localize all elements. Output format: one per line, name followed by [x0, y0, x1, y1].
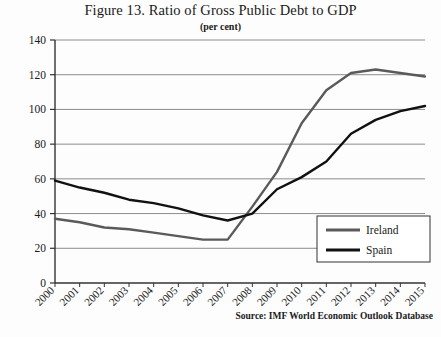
y-tick-label: 80 [35, 138, 47, 150]
x-tick-label: 2012 [328, 284, 352, 308]
x-tick-label: 2004 [131, 284, 155, 308]
legend-label-spain: Spain [366, 244, 392, 257]
source-note: Source: IMF World Economic Outlook Datab… [236, 311, 433, 321]
x-tick-label: 2010 [279, 284, 303, 308]
x-tick-label: 2015 [402, 284, 426, 308]
x-tick-label: 2002 [82, 284, 106, 308]
y-tick-label: 40 [35, 208, 47, 220]
y-tick-label: 140 [29, 34, 47, 46]
series-line-ireland [55, 70, 425, 240]
x-tick-label: 2005 [156, 284, 180, 308]
x-tick-label: 2003 [106, 284, 130, 308]
x-tick-label: 2008 [230, 284, 254, 308]
x-tick-label: 2006 [180, 284, 204, 308]
y-tick-label: 60 [35, 173, 47, 185]
x-tick-label: 2007 [205, 284, 229, 308]
y-tick-label: 100 [29, 103, 47, 115]
x-tick-label: 2001 [57, 284, 81, 308]
line-chart: 020406080100120140 200020012002200320042… [0, 0, 441, 337]
figure-container: Figure 13. Ratio of Gross Public Debt to… [0, 0, 441, 337]
y-tick-label: 20 [35, 242, 47, 254]
x-tick-label: 2011 [304, 284, 328, 308]
x-tick-label: 2009 [254, 284, 278, 308]
x-tick-label: 2000 [32, 284, 56, 308]
data-series [55, 70, 425, 240]
y-tick-label: 120 [29, 69, 47, 81]
x-axis-ticks: 2000200120022003200420052006200720082009… [32, 283, 426, 308]
y-axis-ticks: 020406080100120140 [29, 34, 55, 289]
x-tick-label: 2014 [378, 284, 402, 308]
legend-label-ireland: Ireland [366, 224, 399, 236]
chart-legend: IrelandSpain [317, 216, 430, 262]
x-tick-label: 2013 [353, 284, 377, 308]
series-line-spain [55, 106, 425, 221]
